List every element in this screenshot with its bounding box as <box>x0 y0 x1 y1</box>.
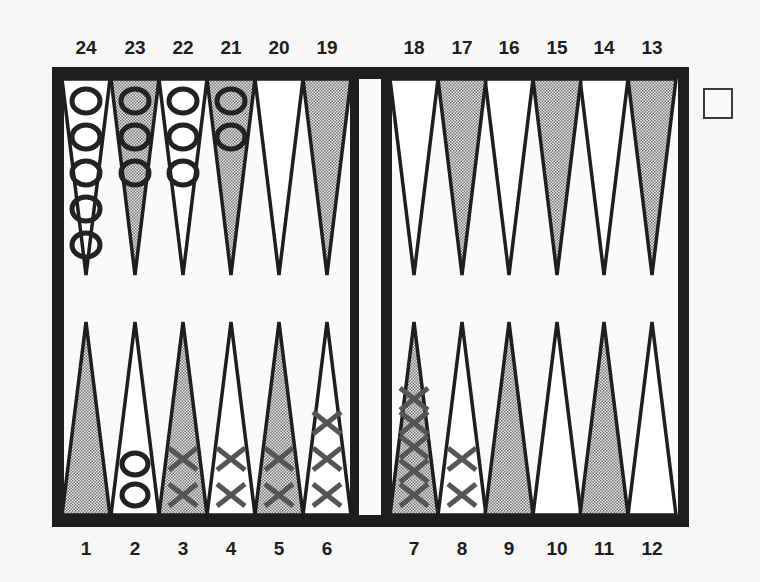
left-half <box>64 79 350 515</box>
bar[interactable] <box>359 79 381 515</box>
board-canvas <box>0 0 760 582</box>
doubling-cube[interactable] <box>703 88 733 119</box>
